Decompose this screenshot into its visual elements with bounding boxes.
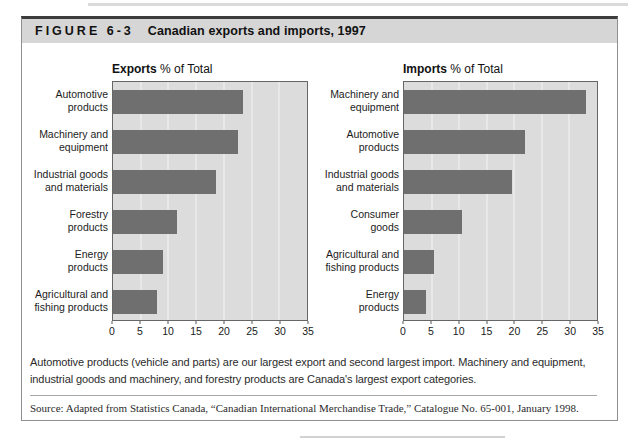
axis-tick	[224, 321, 225, 324]
axis-tick-label: 35	[302, 325, 314, 337]
gridline	[431, 82, 432, 320]
axis-tick	[280, 321, 281, 324]
category-label: Agricultural and fishing products	[24, 281, 108, 321]
divider-rule	[30, 395, 597, 396]
exports-category-labels: Automotive productsMachinery and equipme…	[24, 81, 108, 321]
exports-title-bold: Exports	[112, 62, 157, 76]
axis-tick-label: 30	[564, 325, 576, 337]
axis-tick	[458, 321, 459, 324]
axis-tick	[542, 321, 543, 324]
bar	[113, 130, 238, 154]
gridline	[196, 82, 197, 320]
exports-plot-area	[112, 81, 308, 321]
imports-title-bold: Imports	[403, 62, 447, 76]
axis-tick	[570, 321, 571, 324]
bar	[404, 290, 426, 314]
scan-artifact-top	[88, 3, 628, 6]
bar	[404, 210, 462, 234]
axis-tick	[514, 321, 515, 324]
axis-tick-label: 20	[509, 325, 521, 337]
exports-chart-title: Exports % of Total	[112, 61, 308, 76]
figure-box: FIGURE 6-3 Canadian exports and imports,…	[21, 16, 618, 421]
bar	[113, 90, 243, 114]
axis-tick-label: 25	[246, 325, 258, 337]
axis-tick-label: 0	[400, 325, 406, 337]
axis-tick-label: 30	[274, 325, 286, 337]
category-label: Consumer goods	[315, 201, 399, 241]
axis-tick	[430, 321, 431, 324]
category-label: Energy products	[315, 281, 399, 321]
gridline	[168, 82, 169, 320]
scan-artifact-bottom	[300, 436, 505, 438]
axis-tick-label: 5	[428, 325, 434, 337]
source-note: Source: Adapted from Statistics Canada, …	[30, 402, 607, 414]
axis-tick	[308, 321, 309, 324]
axis-tick	[196, 321, 197, 324]
bar	[113, 250, 163, 274]
gridline	[541, 82, 542, 320]
gridline	[486, 82, 487, 320]
axis-tick	[112, 321, 113, 324]
category-label: Machinery and equipment	[315, 81, 399, 121]
imports-plot-area	[403, 81, 598, 321]
category-label: Industrial goods and materials	[315, 161, 399, 201]
axis-tick-label: 25	[536, 325, 548, 337]
imports-category-labels: Machinery and equipmentAutomotive produc…	[315, 81, 399, 321]
axis-tick	[252, 321, 253, 324]
axis-tick-label: 15	[190, 325, 202, 337]
gridline	[569, 82, 570, 320]
figure-label: FIGURE 6-3	[35, 24, 134, 38]
category-label: Energy products	[24, 241, 108, 281]
category-label: Machinery and equipment	[24, 121, 108, 161]
axis-tick-label: 0	[109, 325, 115, 337]
axis-tick-label: 20	[218, 325, 230, 337]
bar	[404, 130, 525, 154]
gridline	[223, 82, 224, 320]
bar	[404, 170, 512, 194]
imports-chart: Imports % of Total Machinery and equipme…	[315, 61, 598, 338]
category-label: Agricultural and fishing products	[315, 241, 399, 281]
figure-header: FIGURE 6-3 Canadian exports and imports,…	[22, 19, 617, 43]
axis-tick	[403, 321, 404, 324]
charts-row: Exports % of Total Automotive productsMa…	[22, 61, 617, 338]
axis-tick-label: 15	[481, 325, 493, 337]
figure-caption: Automotive products (vehicle and parts) …	[30, 354, 599, 387]
axis-tick-label: 35	[592, 325, 604, 337]
axis-tick-label: 5	[137, 325, 143, 337]
gridline	[140, 82, 141, 320]
imports-x-axis: 05101520253035	[403, 321, 598, 338]
bar	[113, 210, 177, 234]
axis-tick-label: 10	[162, 325, 174, 337]
bar	[113, 290, 157, 314]
axis-tick-label: 10	[453, 325, 465, 337]
gridline	[279, 82, 280, 320]
gridline	[514, 82, 515, 320]
bar	[404, 250, 434, 274]
category-label: Automotive products	[315, 121, 399, 161]
imports-title-rest: % of Total	[447, 62, 503, 76]
gridline	[459, 82, 460, 320]
category-label: Forestry products	[24, 201, 108, 241]
figure-title: Canadian exports and imports, 1997	[148, 24, 366, 38]
axis-tick	[168, 321, 169, 324]
exports-x-axis: 05101520253035	[112, 321, 308, 338]
imports-chart-title: Imports % of Total	[403, 61, 598, 76]
category-label: Automotive products	[24, 81, 108, 121]
exports-title-rest: % of Total	[157, 62, 213, 76]
exports-chart: Exports % of Total Automotive productsMa…	[24, 61, 308, 338]
axis-tick	[140, 321, 141, 324]
gridline	[251, 82, 252, 320]
category-label: Industrial goods and materials	[24, 161, 108, 201]
axis-tick	[598, 321, 599, 324]
axis-tick	[486, 321, 487, 324]
bar	[113, 170, 216, 194]
bar	[404, 90, 586, 114]
